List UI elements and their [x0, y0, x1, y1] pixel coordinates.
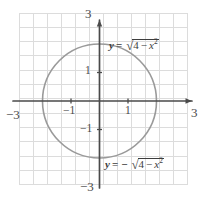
lower-eq-equals: = [112, 158, 118, 170]
upper-eq-radicand-op: − [141, 39, 147, 51]
lower-eq-minus: − [121, 158, 127, 170]
upper-eq-radicand-a: 4 [133, 39, 139, 51]
lower-eq-radicand-op: − [146, 158, 152, 170]
x-tick-label-minus1: −1 [63, 105, 75, 117]
upper-eq-radicand-exp: 2 [154, 37, 158, 46]
graph-figure: −3 −1 1 3 3 1 −1 −3 y=√4−x2 y=−√4−x2 [0, 0, 209, 200]
upper-eq-y: y [109, 39, 114, 51]
lower-eq-y: y [105, 158, 110, 170]
y-tick-label-minus3: −3 [80, 180, 94, 193]
y-tick-label-3: 3 [85, 7, 92, 20]
lower-semicircle-equation: y=−√4−x2 [105, 158, 164, 171]
lower-eq-radical: √4−x2 [130, 158, 164, 171]
x-tick-label-minus3: −3 [6, 108, 20, 121]
lower-eq-radicand-a: 4 [139, 158, 145, 170]
y-tick-label-one: 1 [85, 65, 91, 77]
y-axis-arrowhead [97, 20, 102, 27]
x-tick-label-3: 3 [191, 106, 198, 119]
upper-semicircle-equation: y=√4−x2 [109, 39, 159, 52]
lower-eq-radicand-exp: 2 [159, 156, 163, 165]
x-axis-arrowhead [186, 98, 193, 103]
y-tick-label-minus1: −1 [80, 123, 92, 135]
x-tick-label-one: 1 [125, 105, 131, 117]
upper-eq-equals: = [116, 39, 122, 51]
upper-eq-radical: √4−x2 [125, 39, 159, 52]
